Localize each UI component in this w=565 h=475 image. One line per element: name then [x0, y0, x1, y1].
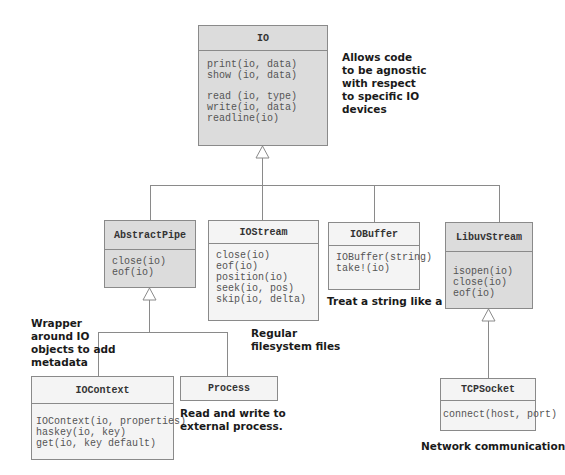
class-iostream-methods: close(io) eof(io) position(io) seek(io, …	[209, 244, 318, 311]
class-io-methods-output: print(io, data) show (io, data)	[199, 51, 327, 81]
class-io: IO print(io, data) show (io, data) read …	[198, 25, 328, 146]
class-abstractpipe-name: AbstractPipe	[105, 221, 195, 250]
class-io-name: IO	[199, 26, 327, 51]
inheritance-arrow-abstractpipe-icon	[143, 288, 156, 300]
class-iocontext-name: IOContext	[32, 377, 173, 404]
note-abstractpipe: Wrapper around IO objects to add metadat…	[31, 317, 116, 369]
class-io-methods-input: read (io, type) write(io, data) readline…	[199, 81, 327, 130]
class-iobuffer-name: IOBuffer	[329, 223, 419, 246]
class-iostream-name: IOStream	[209, 221, 318, 244]
class-iobuffer: IOBuffer IOBuffer(string) take!(io)	[328, 222, 420, 290]
class-iocontext: IOContext IOContext(io, properties) hask…	[31, 376, 174, 460]
note-iostream: Regular filesystem files	[251, 327, 340, 353]
class-tcpsocket-methods: connect(host, port)	[441, 401, 535, 426]
note-process: Read and write to external process.	[180, 407, 286, 433]
class-abstractpipe-methods: close(io) eof(io)	[105, 250, 195, 284]
class-libuvstream-name: LibuvStream	[446, 223, 532, 252]
class-iobuffer-methods: IOBuffer(string) take!(io)	[329, 246, 419, 280]
class-process-name: Process	[181, 377, 277, 400]
class-libuvstream: LibuvStream isopen(io) close(io) eof(io)	[445, 222, 533, 309]
note-io: Allows code to be agnostic with respect …	[342, 51, 427, 116]
note-tcpsocket: Network communication	[421, 440, 565, 453]
class-iostream: IOStream close(io) eof(io) position(io) …	[208, 220, 319, 321]
class-process: Process	[180, 376, 278, 401]
class-tcpsocket: TCPSocket connect(host, port)	[440, 378, 536, 431]
class-libuvstream-methods: isopen(io) close(io) eof(io)	[446, 252, 532, 305]
class-abstractpipe: AbstractPipe close(io) eof(io)	[104, 220, 196, 288]
class-iocontext-methods: IOContext(io, properties) haskey(io, key…	[32, 404, 173, 455]
class-tcpsocket-name: TCPSocket	[441, 379, 535, 401]
inheritance-arrow-libuvstream-icon	[482, 309, 495, 321]
inheritance-arrow-io-icon	[256, 146, 269, 158]
